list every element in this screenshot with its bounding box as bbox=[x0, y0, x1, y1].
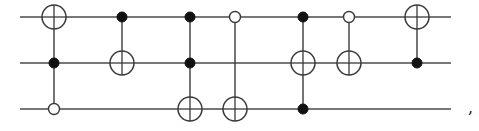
filled-control-dot-icon bbox=[298, 104, 308, 114]
target-oplus-icon bbox=[223, 97, 247, 121]
cnot-gate-2 bbox=[110, 12, 134, 75]
cnot-gate-3 bbox=[178, 12, 202, 121]
cnot-gate-4 bbox=[223, 12, 247, 122]
target-oplus-icon bbox=[291, 51, 315, 75]
filled-control-dot-icon bbox=[49, 58, 59, 68]
cnot-gate-5 bbox=[291, 12, 315, 114]
cnot-gate-1 bbox=[42, 5, 66, 115]
open-control-dot-icon bbox=[230, 12, 241, 23]
target-oplus-icon bbox=[42, 5, 66, 29]
filled-control-dot-icon bbox=[185, 58, 195, 68]
filled-control-dot-icon bbox=[185, 12, 195, 22]
target-oplus-icon bbox=[405, 5, 429, 29]
cnot-gate-7 bbox=[405, 5, 429, 68]
target-oplus-icon bbox=[110, 51, 134, 75]
cnot-gate-6 bbox=[337, 12, 361, 76]
quantum-circuit-diagram bbox=[0, 0, 479, 131]
filled-control-dot-icon bbox=[117, 12, 127, 22]
filled-control-dot-icon bbox=[298, 12, 308, 22]
filled-control-dot-icon bbox=[412, 58, 422, 68]
open-control-dot-icon bbox=[49, 104, 60, 115]
target-oplus-icon bbox=[337, 51, 361, 75]
open-control-dot-icon bbox=[344, 12, 355, 23]
trailing-comma: , bbox=[468, 98, 473, 117]
target-oplus-icon bbox=[178, 97, 202, 121]
